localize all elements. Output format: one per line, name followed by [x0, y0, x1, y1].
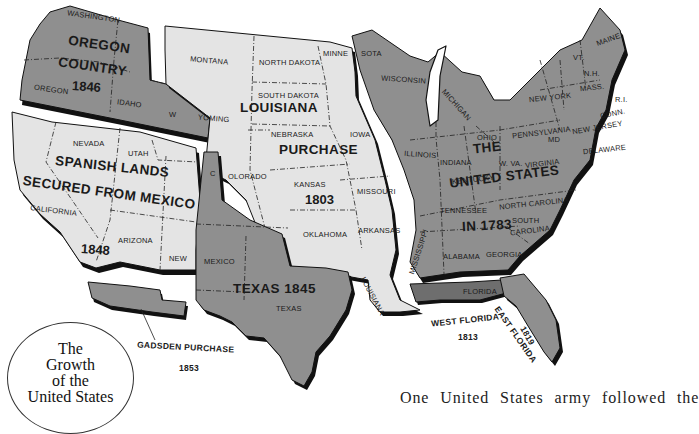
- us-1783-label: THE: [472, 140, 501, 156]
- state-label-minnesota-b: SOTA: [361, 50, 382, 58]
- west-florida-year: 1813: [458, 333, 478, 342]
- map-title-line-1: The: [7, 341, 134, 357]
- state-label-rhode-island: R.I.: [615, 96, 627, 104]
- state-label-florida: FLORIDA: [463, 288, 497, 296]
- state-label-texas: TEXAS: [276, 305, 302, 313]
- state-label-minnesota-a: MINNE: [323, 50, 348, 58]
- state-label-indiana: INDIANA: [440, 159, 472, 167]
- louisiana-purchase-label: LOUISIANA: [240, 101, 318, 115]
- state-label-georgia: GEORGIA: [486, 251, 522, 259]
- state-label-arkansas: ARKANSAS: [358, 227, 400, 235]
- oregon-country-year: 1846: [72, 79, 102, 94]
- gadsden-purchase-year: 1853: [179, 364, 199, 373]
- state-label-maryland: MD: [548, 136, 560, 144]
- state-label-nevada: NEVADA: [73, 140, 105, 148]
- state-label-iowa: IOWA: [350, 131, 371, 139]
- state-label-south-dakota: SOUTH DAKOTA: [258, 92, 319, 100]
- state-label-colorado: OLORADO: [228, 173, 267, 181]
- body-text-line: One United States army followed the: [400, 389, 699, 407]
- state-label-alabama: ALABAMA: [443, 253, 480, 261]
- map-title-line-4: United States: [7, 389, 134, 405]
- state-label-tennessee: TENNESSEE: [440, 207, 487, 215]
- state-label-arizona: ARIZONA: [118, 237, 153, 245]
- louisiana-purchase-year: 1803: [305, 193, 334, 206]
- spanish-lands-year: 1848: [81, 242, 111, 257]
- state-label-colorado-c: C: [210, 170, 216, 178]
- state-label-utah: UTAH: [128, 150, 149, 158]
- state-label-kansas: KANSAS: [294, 181, 326, 189]
- state-label-oklahoma: OKLAHOMA: [303, 231, 347, 239]
- map-title: The Growth of the United States: [7, 341, 134, 405]
- state-label-new-mexico-b: MEXICO: [204, 258, 235, 266]
- state-label-west-virginia: W. VA.: [499, 160, 523, 168]
- state-label-new-hampshire: N.H.: [584, 70, 600, 78]
- state-label-nebraska: NEBRASKA: [271, 131, 313, 139]
- state-label-missouri: MISSOURI: [357, 188, 396, 196]
- state-label-north-dakota: NORTH DAKOTA: [259, 59, 320, 67]
- us-1783-label-3: IN 1783: [462, 218, 513, 234]
- texas-1845-label: TEXAS 1845: [233, 282, 316, 296]
- state-label-new-mexico-a: NEW: [169, 255, 187, 263]
- state-label-vermont: VT.: [573, 54, 584, 62]
- map-title-line-2: Growth: [7, 357, 134, 373]
- state-label-wyoming-w: W: [169, 111, 176, 119]
- state-label-ohio: OHIO: [477, 134, 497, 142]
- map-title-line-3: of the: [7, 373, 134, 389]
- state-label-south-carolina-a: SOUTH: [512, 217, 539, 225]
- state-label-illinois: ILLINOIS: [404, 150, 437, 160]
- louisiana-purchase-label-2: PURCHASE: [279, 143, 358, 157]
